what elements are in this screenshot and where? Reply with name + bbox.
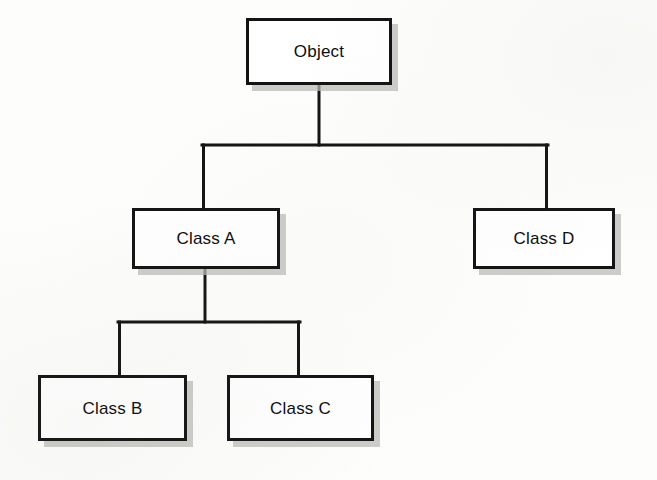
class-hierarchy-diagram: Object Class A Class D Class B Class C [0,0,657,480]
node-class-b-label: Class B [83,400,143,417]
node-class-d[interactable]: Class D [473,208,615,269]
node-class-d-label: Class D [514,230,575,247]
node-class-c[interactable]: Class C [227,375,374,441]
node-class-b[interactable]: Class B [38,375,187,441]
node-class-a[interactable]: Class A [132,208,280,269]
node-object[interactable]: Object [246,18,392,85]
node-class-c-label: Class C [270,400,331,417]
node-class-a-label: Class A [176,230,235,247]
node-object-label: Object [294,43,344,60]
